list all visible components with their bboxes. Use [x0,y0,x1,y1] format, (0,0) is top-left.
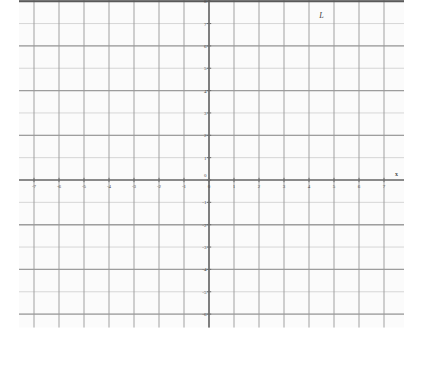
y-tick-label: 5 [204,66,207,71]
y-tick-label: -3 [202,245,206,250]
y-tick-label: 2 [204,133,207,138]
x-tick-label: 7 [383,184,386,189]
y-tick-label-origin: 0 [204,173,207,178]
x-tick-label: -4 [107,184,111,189]
y-tick-label: -5 [202,289,206,294]
y-tick-label: 7 [204,21,207,26]
x-tick-label: -7 [32,184,36,189]
x-tick-label: 5 [333,184,336,189]
y-tick-label: -1 [202,200,206,205]
x-tick-label: 4 [308,184,311,189]
line-label-L: L [319,11,323,20]
grid-background [19,0,404,328]
coordinate-grid-svg [0,0,423,365]
y-tick-label: 1 [204,155,207,160]
x-tick-label: 2 [258,184,261,189]
y-tick-label: -2 [202,222,206,227]
x-tick-label: 3 [283,184,286,189]
y-tick-label: -4 [202,267,206,272]
x-tick-label: -5 [82,184,86,189]
x-tick-label: -3 [132,184,136,189]
x-tick-label: 6 [358,184,361,189]
x-axis-label: x [395,171,398,177]
graph-figure: -7-6-5-4-3-2-101234567-6-5-4-3-2-1123456… [0,0,423,365]
x-tick-label: 1 [233,184,236,189]
y-tick-label: 3 [204,110,207,115]
y-tick-label: 6 [204,43,207,48]
x-tick-label: -2 [157,184,161,189]
x-tick-label: 0 [208,184,211,189]
x-tick-label: -1 [182,184,186,189]
y-tick-label: 8 [204,0,207,4]
y-tick-label: -6 [202,312,206,317]
x-tick-label: -6 [57,184,61,189]
y-tick-label: 4 [204,88,207,93]
